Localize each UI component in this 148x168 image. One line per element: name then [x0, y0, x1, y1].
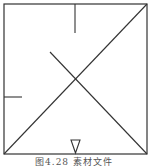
triangle-marker-icon — [71, 140, 80, 153]
partial-diagonal-line — [50, 52, 147, 154]
diagram-figure: 图4.28 素材文件 — [0, 0, 148, 168]
diagram-canvas — [0, 0, 148, 168]
figure-caption: 图4.28 素材文件 — [0, 155, 148, 168]
